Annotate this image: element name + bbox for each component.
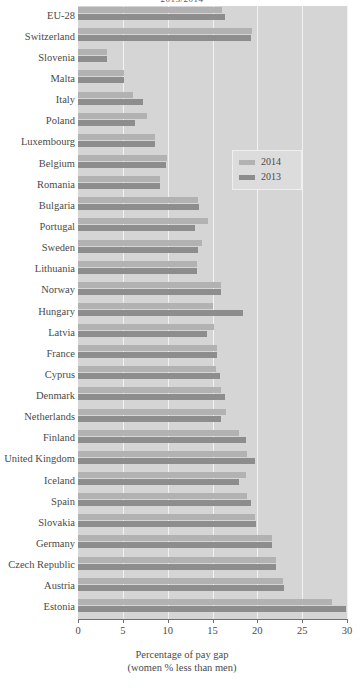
legend-swatch-2013: [239, 175, 255, 180]
legend-label-2014: 2014: [261, 156, 281, 167]
bar-row: [78, 112, 347, 133]
bar-2014: [78, 176, 160, 182]
bar-2014: [78, 557, 276, 563]
y-axis-label: Slovenia: [0, 52, 75, 63]
bar-2014: [78, 113, 147, 119]
y-axis-label: France: [0, 348, 75, 359]
y-axis-label: Portugal: [0, 221, 75, 232]
x-tick: [213, 619, 214, 623]
bar-2013: [78, 183, 160, 189]
y-axis-label: Italy: [0, 94, 75, 105]
chart-legend: 2014 2013: [232, 150, 302, 190]
bar-2014: [78, 92, 133, 98]
bar-2013: [78, 225, 195, 231]
bar-2013: [78, 458, 255, 464]
y-axis-label: Bulgaria: [0, 200, 75, 211]
bar-2014: [78, 7, 222, 13]
y-axis-label: Netherlands: [0, 411, 75, 422]
y-axis-label: Czech Republic: [0, 559, 75, 570]
y-axis-label: Latvia: [0, 327, 75, 338]
bar-2013: [78, 289, 221, 295]
bar-2014: [78, 345, 217, 351]
bar-row: [78, 492, 347, 513]
plot-area: [78, 6, 347, 619]
x-axis-caption-line1: Percentage of pay gap: [0, 648, 364, 661]
bar-row: [78, 471, 347, 492]
gridline: [347, 6, 348, 619]
bar-2013: [78, 310, 243, 316]
bar-row: [78, 534, 347, 555]
legend-swatch-2014: [239, 160, 255, 165]
x-tick-label: 0: [63, 625, 93, 636]
bar-row: [78, 323, 347, 344]
y-axis-label: Finland: [0, 432, 75, 443]
bar-2013: [78, 120, 135, 126]
x-tick: [123, 619, 124, 623]
y-axis-label: Switzerland: [0, 31, 75, 42]
bar-2013: [78, 373, 220, 379]
bar-2013: [78, 331, 207, 337]
bar-2014: [78, 430, 239, 436]
bar-row: [78, 6, 347, 27]
bar-2013: [78, 606, 346, 612]
bar-row: [78, 513, 347, 534]
y-axis-label: Romania: [0, 179, 75, 190]
x-tick-label: 15: [198, 625, 228, 636]
bar-row: [78, 302, 347, 323]
y-axis-labels: EU-28SwitzerlandSloveniaMaltaItalyPoland…: [0, 6, 75, 619]
bar-row: [78, 365, 347, 386]
bar-2013: [78, 352, 217, 358]
x-tick: [168, 619, 169, 623]
bar-2013: [78, 585, 284, 591]
y-axis-label: EU-28: [0, 10, 75, 21]
y-axis-label: Denmark: [0, 390, 75, 401]
x-tick: [257, 619, 258, 623]
y-axis-label: Slovakia: [0, 517, 75, 528]
bar-row: [78, 175, 347, 196]
x-axis-caption-line2: (women % less than men): [0, 661, 364, 674]
legend-label-2013: 2013: [261, 171, 281, 182]
bar-2013: [78, 500, 251, 506]
y-axis-label: Luxembourg: [0, 136, 75, 147]
x-tick-label: 25: [287, 625, 317, 636]
bar-row: [78, 133, 347, 154]
x-tick: [302, 619, 303, 623]
bar-2013: [78, 542, 272, 548]
bar-row: [78, 27, 347, 48]
y-axis-label: Austria: [0, 580, 75, 591]
y-axis-label: Cyprus: [0, 369, 75, 380]
chart-figure: 2013/2014 EU-28SwitzerlandSloveniaMaltaI…: [0, 0, 364, 691]
bar-2014: [78, 49, 107, 55]
bar-2014: [78, 409, 226, 415]
bar-2014: [78, 366, 216, 372]
bar-row: [78, 408, 347, 429]
bar-row: [78, 577, 347, 598]
bar-2013: [78, 394, 225, 400]
bar-2013: [78, 268, 197, 274]
y-axis-label: Hungary: [0, 306, 75, 317]
chart-title: 2013/2014: [0, 0, 364, 2]
y-axis-label: United Kingdom: [0, 453, 75, 464]
bar-rows: [78, 6, 347, 619]
y-axis-label: Belgium: [0, 158, 75, 169]
bar-2014: [78, 197, 198, 203]
bar-2014: [78, 578, 283, 584]
bar-2013: [78, 162, 166, 168]
bar-2013: [78, 56, 107, 62]
bar-row: [78, 556, 347, 577]
bar-2014: [78, 155, 167, 161]
x-tick-label: 30: [332, 625, 362, 636]
bar-2013: [78, 564, 276, 570]
bar-2014: [78, 324, 214, 330]
y-axis-label: Malta: [0, 73, 75, 84]
bar-row: [78, 344, 347, 365]
bar-2014: [78, 282, 221, 288]
bar-row: [78, 154, 347, 175]
bar-2014: [78, 28, 252, 34]
x-axis-caption: Percentage of pay gap (women % less than…: [0, 648, 364, 674]
bar-2013: [78, 437, 246, 443]
bar-row: [78, 48, 347, 69]
x-tick: [347, 619, 348, 623]
bar-row: [78, 598, 347, 619]
bar-2014: [78, 303, 213, 309]
